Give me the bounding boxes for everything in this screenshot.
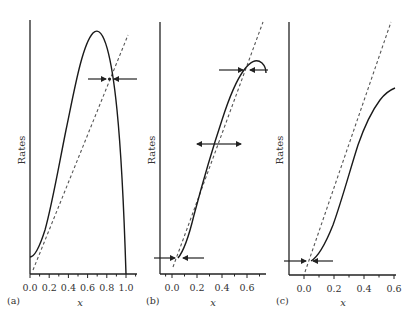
x-tick-label: 0.4: [356, 283, 371, 294]
x-tick-label: 0.0: [296, 283, 311, 294]
rate-curve: [30, 31, 126, 274]
x-tick-label: 0.6: [239, 282, 254, 293]
y-axis-title: Rates: [16, 136, 27, 165]
x-tick-label: 0.4: [214, 282, 229, 293]
x-tick-label: 0.6: [386, 283, 401, 294]
x-tick-label: 0.2: [42, 282, 57, 293]
panel-label-c: (c): [276, 295, 289, 306]
x-tick-label: 0.2: [189, 282, 204, 293]
panel-a: 0.0 0.2 0.4 0.6 0.8 1.0 (a) x Rates: [7, 20, 137, 308]
x-tick-label: 0.2: [326, 283, 341, 294]
figure: 0.0 0.2 0.4 0.6 0.8 1.0 (a) x Rates 0.0 …: [0, 0, 420, 323]
rate-curve: [311, 88, 395, 261]
equilibrium-point: [108, 77, 111, 80]
x-tick-label: 0.8: [99, 282, 114, 293]
dashed-line: [305, 22, 391, 272]
panel-label-b: (b): [146, 295, 160, 306]
x-tick-label: 0.4: [61, 282, 76, 293]
panel-b: 0.0 0.2 0.4 0.6 (b) x Rates: [146, 22, 268, 308]
y-axis-title: Rates: [274, 136, 285, 165]
y-axis-title: Rates: [146, 136, 157, 165]
rate-curve: [178, 61, 266, 258]
dashed-line: [33, 35, 128, 270]
x-axis-title: x: [340, 297, 346, 308]
x-tick-label: 0.0: [164, 282, 179, 293]
x-tick-label: 1.0: [118, 282, 133, 293]
x-tick-label: 0.6: [80, 282, 95, 293]
x-axis-title: x: [210, 297, 216, 308]
x-tick-label: 0.0: [22, 282, 37, 293]
panel-label-a: (a): [7, 295, 20, 306]
panel-c: 0.0 0.2 0.4 0.6 (c) x Rates: [274, 22, 402, 308]
x-axis-title: x: [77, 297, 83, 308]
